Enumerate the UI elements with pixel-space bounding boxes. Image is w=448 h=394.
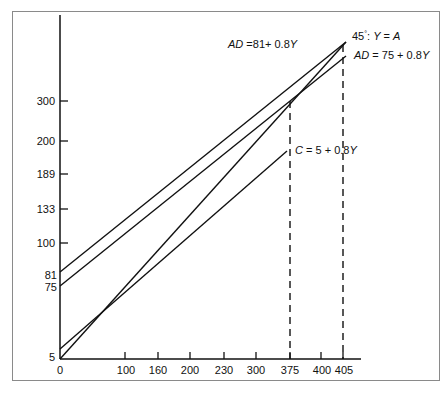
y-tick-label: 133	[37, 203, 55, 215]
y-tick-label: 81	[45, 269, 57, 281]
x-tick-label: 230	[215, 364, 233, 376]
y-ticks	[60, 101, 68, 243]
ad-75-label: AD = 75 + 0.8Y	[353, 49, 430, 61]
consumption-label: C = 5 + 0.8Y	[295, 144, 357, 156]
y-tick-label: 300	[37, 95, 55, 107]
ad-81-label: AD =81+ 0.8Y	[227, 38, 298, 50]
y-tick-label: 75	[45, 281, 57, 293]
y-tick-label: 189	[37, 168, 55, 180]
x-tick-label: 405	[335, 364, 353, 376]
y-tick-label: 100	[37, 237, 55, 249]
x-tick-label: 300	[247, 364, 265, 376]
x-tick-label: 0	[57, 364, 63, 376]
y-tick-labels: 300 200 189 133 100 81 75 5	[37, 95, 57, 363]
line-45-label: 45°: Y = A	[352, 30, 400, 42]
y-tick-label: 5	[49, 351, 55, 363]
chart-canvas: 0 100 160 200 230 300 375 400 405 300 20…	[0, 0, 448, 394]
x-tick-label: 160	[149, 364, 167, 376]
x-tick-label: 200	[181, 364, 199, 376]
x-tick-label: 400	[313, 364, 331, 376]
y-tick-label: 200	[37, 135, 55, 147]
x-tick-labels: 0 100 160 200 230 300 375 400 405	[57, 364, 353, 376]
ad-81-line	[60, 42, 346, 272]
x-tick-label: 375	[281, 364, 299, 376]
x-tick-label: 100	[117, 364, 135, 376]
x-ticks	[125, 352, 343, 359]
